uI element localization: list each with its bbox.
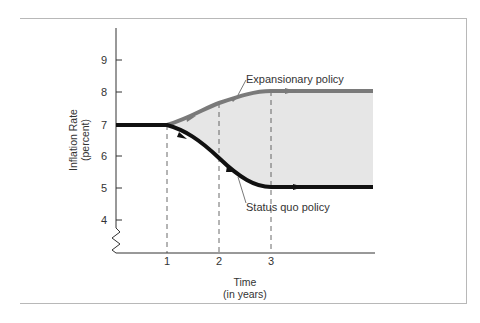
axis-break-icon [112, 228, 120, 253]
annotation-expansionary-pointer [238, 80, 246, 95]
y-ticks [116, 60, 122, 220]
annotation-expansionary: Expansionary policy [246, 73, 344, 85]
svg-text:6: 6 [101, 150, 107, 162]
svg-text:2: 2 [216, 255, 222, 267]
x-axis-subtitle: (in years) [223, 288, 267, 300]
svg-text:1: 1 [164, 255, 170, 267]
y-axis-title: Inflation Rate [67, 109, 79, 171]
svg-text:9: 9 [101, 54, 107, 66]
svg-text:7: 7 [101, 119, 107, 131]
svg-text:8: 8 [101, 86, 107, 98]
svg-text:3: 3 [268, 255, 274, 267]
y-tick-labels: 4 5 6 7 8 9 [101, 54, 107, 226]
svg-text:5: 5 [101, 182, 107, 194]
svg-text:4: 4 [101, 214, 107, 226]
x-axis-title: Time [234, 276, 257, 288]
inflation-chart: 4 5 6 7 8 9 1 2 3 Time (in years) Inflat… [0, 0, 480, 323]
y-axis-subtitle: (percent) [79, 119, 91, 161]
x-tick-labels: 1 2 3 [164, 255, 274, 267]
annotation-status-quo: Status quo policy [246, 201, 330, 213]
